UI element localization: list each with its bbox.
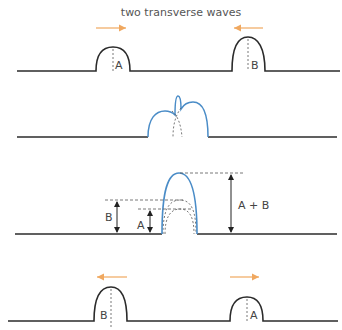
superposed-pulse xyxy=(162,173,197,234)
panel-superposition: B A A + B xyxy=(15,173,337,234)
label-a: A xyxy=(137,219,145,232)
string-with-pulses xyxy=(8,287,338,321)
pulse-b-label: B xyxy=(100,309,108,322)
label-a-plus-b: A + B xyxy=(238,199,269,212)
panel-overlapping xyxy=(17,96,337,137)
pulse-a-label: A xyxy=(250,309,258,322)
diagram-title: two transverse waves xyxy=(121,6,242,19)
panel-after: B A xyxy=(8,277,338,328)
wave-superposition-diagram: two transverse waves A B B xyxy=(0,0,342,330)
pulse-a-label: A xyxy=(115,59,123,72)
label-b: B xyxy=(105,211,113,224)
string-with-pulses xyxy=(17,37,340,71)
combined-wave xyxy=(148,96,208,137)
panel-before: A B xyxy=(17,28,340,72)
pulse-b-label: B xyxy=(251,59,259,72)
